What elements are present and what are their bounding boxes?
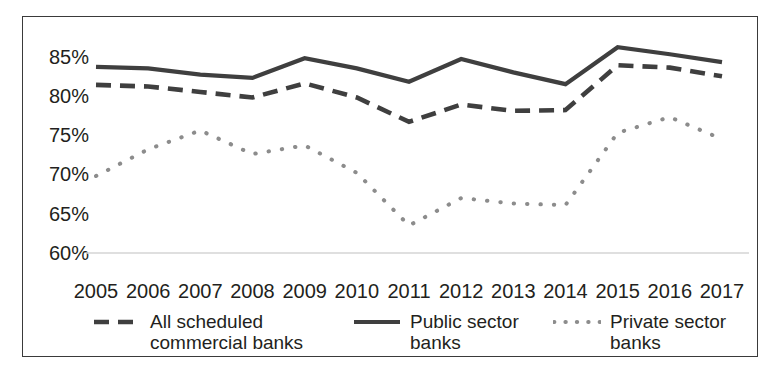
- legend-swatch-solid-icon: [353, 312, 401, 332]
- x-tick-label-2006: 2006: [126, 281, 171, 301]
- x-tick-label-2014: 2014: [543, 281, 588, 301]
- x-axis: 2005200620072008200920102011201220132014…: [23, 281, 759, 311]
- legend-swatch-dashed-icon: [93, 312, 141, 332]
- x-tick-label-2012: 2012: [439, 281, 484, 301]
- chart-legend: All scheduled commercial banksPublic sec…: [23, 311, 759, 357]
- x-tick-label-2005: 2005: [74, 281, 119, 301]
- legend-label-0: All scheduled commercial banks: [150, 311, 303, 354]
- x-tick-label-2010: 2010: [335, 281, 380, 301]
- x-tick-label-2011: 2011: [387, 281, 430, 301]
- x-tick-label-2007: 2007: [178, 281, 223, 301]
- x-tick-label-2009: 2009: [282, 281, 327, 301]
- legend-swatch-dotted-icon: [553, 312, 601, 332]
- legend-entry-2[interactable]: Private sector banks: [553, 311, 726, 354]
- x-tick-label-2008: 2008: [230, 281, 275, 301]
- x-tick-label-2016: 2016: [648, 281, 693, 301]
- x-tick-label-2015: 2015: [595, 281, 640, 301]
- plot-area: 60%65%70%75%80%85% 200520062007200820092…: [23, 17, 759, 358]
- legend-label-2: Private sector banks: [610, 311, 726, 354]
- chart-figure: 60%65%70%75%80%85% 200520062007200820092…: [22, 16, 758, 357]
- legend-entry-1[interactable]: Public sector banks: [353, 311, 519, 354]
- x-tick-label-2017: 2017: [700, 281, 745, 301]
- legend-entry-0[interactable]: All scheduled commercial banks: [93, 311, 303, 354]
- x-tick-label-2013: 2013: [491, 281, 536, 301]
- series-line-2: [96, 117, 722, 225]
- legend-label-1: Public sector banks: [410, 311, 519, 354]
